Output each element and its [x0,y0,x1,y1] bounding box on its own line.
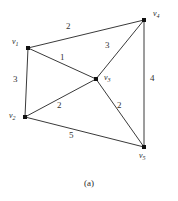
graph-vertex-v2 [23,115,27,119]
graph-edge-v2-v3 [25,79,96,117]
edge-weight-v3-v5: 2 [117,101,122,110]
edge-weight-v4-v5: 4 [150,74,155,83]
edge-weight-v1-v4: 2 [66,22,71,31]
figure-container: 21334225 v1v2v3v4v5 (a) [0,0,178,201]
vertices-group [23,18,146,149]
graph-vertex-v4 [142,18,146,22]
vertex-label-v1: v1 [12,38,19,46]
vertex-label-v4: v4 [153,10,160,18]
figure-caption: (a) [0,178,178,188]
edge-weight-v2-v3: 2 [57,101,62,110]
edge-weight-v2-v5: 5 [69,131,74,140]
edges-group [25,20,144,147]
graph-edge-v1-v4 [28,20,144,48]
graph-vertex-v1 [26,46,30,50]
graph-canvas [0,0,178,201]
graph-edge-v4-v3 [96,20,144,79]
edge-weight-v1-v3: 1 [60,53,65,62]
vertex-label-v5: v5 [139,152,146,160]
edge-weight-v1-v2: 3 [13,75,18,84]
graph-edge-v1-v2 [25,48,28,117]
vertex-label-v3: v3 [104,74,111,82]
vertex-label-v2: v2 [9,112,16,120]
edge-weight-v4-v3: 3 [105,41,110,50]
graph-vertex-v5 [142,145,146,149]
graph-vertex-v3 [94,77,98,81]
